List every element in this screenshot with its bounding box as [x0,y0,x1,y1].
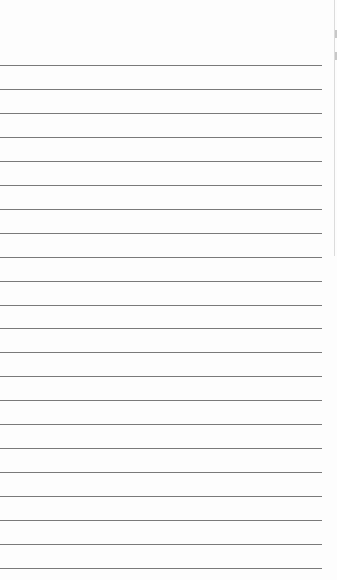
ruled-line [0,352,322,353]
ruled-line [0,161,322,162]
ruled-line [0,305,322,306]
ruled-line [0,233,322,234]
ruled-line [0,376,322,377]
ruled-line [0,65,322,66]
ruled-line [0,496,322,497]
ruled-line [0,185,322,186]
ruled-line [0,281,322,282]
ruled-line [0,520,322,521]
adjacent-page-edge [334,0,335,256]
ruled-line [0,209,322,210]
ruled-line [0,472,322,473]
ruled-line [0,400,322,401]
ruled-line [0,137,322,138]
lined-paper-page [0,0,337,580]
ruled-line [0,544,322,545]
ruled-line [0,424,322,425]
ruled-line [0,257,322,258]
ruled-line [0,328,322,329]
ruled-line [0,448,322,449]
ruled-line [0,113,322,114]
ruled-line [0,89,322,90]
ruled-line [0,568,322,569]
